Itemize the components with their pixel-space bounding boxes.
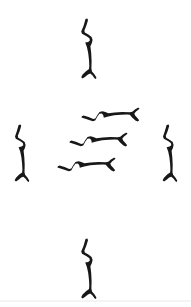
- bottom-edge-rule: [0, 300, 191, 302]
- canvas-background: [0, 0, 191, 307]
- stroke-figure-svg: [0, 0, 191, 307]
- drawing-canvas: [0, 0, 191, 307]
